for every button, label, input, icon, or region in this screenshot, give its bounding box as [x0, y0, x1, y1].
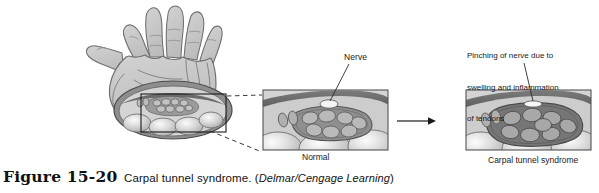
label-pinching-line-2: swelling and inflammation	[467, 83, 559, 94]
median-nerve-normal	[320, 100, 338, 108]
label-pinching-of-nerve: Pinching of nerve due to swelling and in…	[467, 30, 559, 135]
dashed-leader-line-lower	[210, 131, 262, 152]
figure-caption: Figure 15-20 Carpal tunnel syndrome. (De…	[3, 167, 423, 186]
figure-number: Figure 15-20	[3, 167, 117, 186]
right-arrow-icon	[397, 117, 436, 125]
label-pinching-line-3: of tendons	[467, 114, 559, 125]
label-nerve: Nerve	[344, 52, 367, 62]
wrist-cross-section	[114, 81, 232, 139]
panel-caption-normal: Normal	[302, 152, 329, 162]
label-pinching-line-1: Pinching of nerve due to	[467, 51, 559, 62]
caption-paren-close-glyph: )	[390, 172, 394, 184]
figure-title: Carpal tunnel syndrome.	[117, 172, 251, 184]
dashed-leader-line-upper	[227, 95, 262, 96]
figure-credit: Delmar/Cengage Learning	[259, 172, 390, 184]
panel-caption-carpal-tunnel-syndrome: Carpal tunnel syndrome	[488, 155, 578, 165]
